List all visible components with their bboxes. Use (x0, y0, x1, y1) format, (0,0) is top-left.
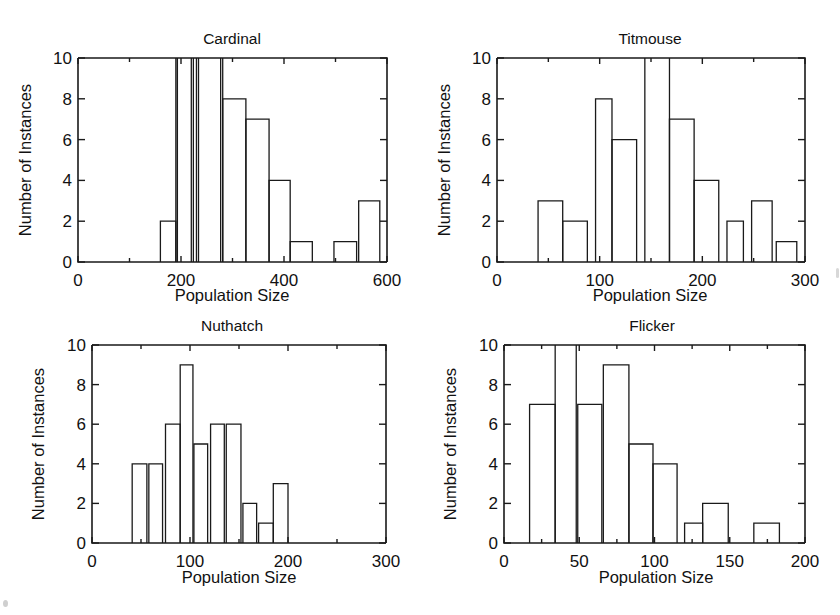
bar-cardinal (269, 180, 290, 262)
y-tick-label: 10 (53, 49, 72, 68)
panel-nuthatch: Nuthatch 0100200300 0246810 Population S… (0, 303, 420, 603)
bars-nuthatch (132, 365, 288, 543)
bars-titmouse (538, 58, 797, 262)
chart-cardinal: Cardinal 0200400600 0246810 Population S… (0, 18, 420, 308)
bar-nuthatch (259, 523, 274, 543)
y-tick-label: 8 (77, 376, 86, 395)
x-axis-label-flicker: Population Size (599, 568, 714, 586)
y-tick-label: 10 (472, 49, 491, 68)
y-tick-label: 4 (63, 171, 72, 190)
y-tick-label: 2 (63, 212, 72, 231)
x-ticks-cardinal: 0200400600 (73, 58, 401, 290)
x-tick-label: 200 (791, 552, 819, 571)
x-tick-label: 150 (716, 552, 744, 571)
y-tick-label: 6 (77, 415, 86, 434)
bars-flicker (530, 345, 780, 543)
x-tick-label: 300 (791, 271, 819, 290)
bar-cardinal (290, 242, 312, 262)
y-axis-label-cardinal: Number of Instances (16, 84, 34, 236)
x-axis-label-nuthatch: Population Size (182, 568, 297, 586)
bar-titmouse (727, 221, 743, 262)
bar-cardinal (196, 58, 198, 262)
y-tick-label: 2 (482, 212, 491, 231)
bar-flicker (653, 464, 677, 543)
bar-titmouse (538, 201, 563, 262)
y-tick-label: 0 (63, 253, 72, 272)
bar-flicker (603, 365, 629, 543)
plot-area-titmouse: 0100200300 0246810 (472, 49, 819, 290)
bar-titmouse (752, 201, 773, 262)
y-tick-label: 6 (63, 131, 72, 150)
bar-nuthatch (243, 503, 257, 543)
y-tick-label: 0 (482, 253, 491, 272)
y-tick-label: 0 (77, 534, 86, 553)
x-tick-label: 600 (373, 271, 401, 290)
bar-cardinal (246, 119, 269, 262)
bar-titmouse (776, 242, 797, 262)
bar-titmouse (596, 99, 612, 262)
chart-flicker: Flicker 050100150200 0246810 Population … (420, 303, 840, 603)
x-ticks-flicker: 050100150200 (499, 345, 819, 571)
bar-flicker (555, 345, 576, 543)
bar-titmouse (612, 140, 637, 262)
y-ticks-titmouse: 0246810 (472, 49, 805, 272)
y-tick-label: 4 (77, 455, 86, 474)
y-tick-label: 8 (63, 90, 72, 109)
x-tick-label: 0 (492, 271, 501, 290)
chart-title-flicker: Flicker (629, 317, 675, 334)
bar-nuthatch (132, 464, 147, 543)
y-tick-label: 10 (67, 336, 86, 355)
bars-cardinal (160, 58, 379, 262)
bar-titmouse (694, 180, 719, 262)
y-tick-label: 0 (489, 534, 498, 553)
bar-cardinal (223, 99, 246, 262)
x-axis-label-cardinal: Population Size (175, 286, 290, 304)
bar-nuthatch (180, 365, 193, 543)
plot-area-flicker: 050100150200 0246810 (479, 336, 819, 571)
panel-titmouse: Titmouse 0100200300 0246810 Population S… (420, 18, 840, 308)
scan-speck (3, 600, 8, 607)
x-tick-label: 50 (570, 552, 589, 571)
bar-titmouse (563, 221, 588, 262)
y-tick-label: 8 (489, 376, 498, 395)
bar-titmouse (645, 58, 670, 262)
bar-nuthatch (226, 424, 241, 543)
bar-nuthatch (149, 464, 163, 543)
bar-nuthatch (166, 424, 181, 543)
y-tick-label: 8 (482, 90, 491, 109)
axes-frame-nuthatch (92, 345, 386, 543)
x-axis-label-titmouse: Population Size (593, 286, 708, 304)
bar-nuthatch (273, 484, 288, 543)
x-ticks-titmouse: 0100200300 (492, 58, 819, 290)
y-tick-label: 10 (479, 336, 498, 355)
x-tick-label: 0 (87, 552, 96, 571)
y-tick-label: 6 (482, 131, 491, 150)
x-tick-label: 0 (73, 271, 82, 290)
x-ticks-nuthatch: 0100200300 (87, 345, 400, 571)
y-axis-label-nuthatch: Number of Instances (29, 368, 47, 520)
x-tick-label: 300 (372, 552, 400, 571)
bar-cardinal (176, 58, 178, 262)
bar-cardinal (160, 221, 175, 262)
chart-title-nuthatch: Nuthatch (201, 317, 263, 334)
bar-flicker (578, 404, 602, 543)
axes-frame-titmouse (497, 58, 805, 262)
bar-titmouse (669, 119, 694, 262)
y-axis-label-flicker: Number of Instances (441, 368, 459, 520)
panel-flicker: Flicker 050100150200 0246810 Population … (420, 303, 840, 603)
bar-cardinal (191, 58, 193, 262)
y-tick-label: 6 (489, 415, 498, 434)
x-tick-label: 0 (499, 552, 508, 571)
bar-flicker (754, 523, 780, 543)
plot-area-cardinal: 0200400600 0246810 (53, 49, 401, 290)
bar-flicker (530, 404, 556, 543)
panel-cardinal: Cardinal 0200400600 0246810 Population S… (0, 18, 420, 308)
scan-speck (836, 268, 839, 278)
bar-cardinal (334, 242, 357, 262)
bar-flicker (685, 523, 703, 543)
chart-nuthatch: Nuthatch 0100200300 0246810 Population S… (0, 303, 420, 603)
figure-histogram-grid: Cardinal 0200400600 0246810 Population S… (0, 0, 840, 615)
axes-frame-flicker (504, 345, 805, 543)
chart-title-titmouse: Titmouse (618, 30, 681, 47)
plot-area-nuthatch: 0100200300 0246810 (67, 336, 400, 571)
